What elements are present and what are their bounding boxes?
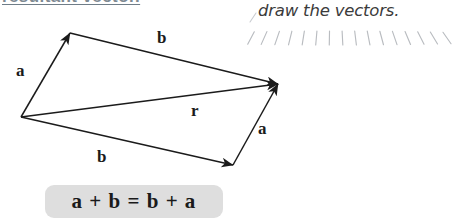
equation-chip: a + b = b + a	[45, 185, 223, 218]
label-vector-b-bottom: b	[97, 148, 106, 165]
label-vector-a-left: a	[16, 62, 25, 79]
tick-mark	[443, 32, 451, 43]
tick-mark	[380, 31, 384, 45]
tick-mark	[367, 31, 370, 45]
vector-r	[21, 84, 278, 117]
vector-diagram	[0, 0, 300, 185]
tick-mark	[405, 32, 410, 45]
label-vector-b-top: b	[157, 29, 166, 46]
vector-a-right	[233, 84, 278, 165]
vector-b-bottom	[21, 117, 233, 165]
tick-mark	[316, 31, 317, 45]
tick-mark	[418, 32, 424, 44]
tick-mark	[355, 31, 357, 45]
label-vector-r: r	[191, 102, 199, 119]
vector-a-left	[21, 33, 70, 117]
label-vector-a-right: a	[258, 120, 267, 137]
figure-page: resultant vector. draw the vectors. a b …	[0, 0, 453, 221]
vector-b-top	[70, 33, 278, 84]
tick-mark	[430, 32, 437, 44]
equation-text: a + b = b + a	[72, 189, 197, 214]
tick-mark	[342, 31, 343, 45]
tick-mark	[302, 31, 304, 45]
tick-mark	[392, 31, 397, 44]
